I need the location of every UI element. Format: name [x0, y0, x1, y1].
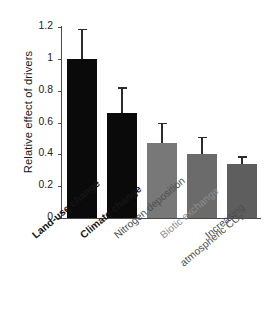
x-axis-labels: Land-use change Climate change Nitrogen …: [0, 0, 271, 325]
bar-chart-figure: Relative effect of drivers 0 0.2 0.4 0.6…: [0, 0, 271, 325]
